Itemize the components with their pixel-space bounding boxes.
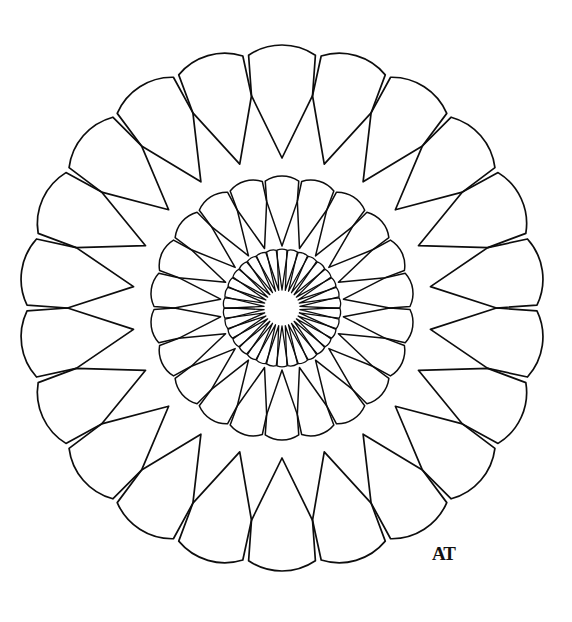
mandala-illustration — [0, 0, 572, 622]
drawing-canvas: AT — [0, 0, 572, 622]
